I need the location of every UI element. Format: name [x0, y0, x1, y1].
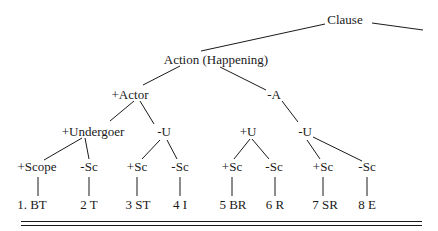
leaf-5: 5 BR — [219, 198, 246, 211]
node-scope-minus-1: -Sc — [80, 160, 97, 173]
leaf-7: 7 SR — [312, 198, 338, 211]
leaf-8: 8 E — [358, 198, 376, 211]
node-scope-plus-4: +Sc — [313, 160, 333, 173]
edge-actor-undergoer — [110, 101, 134, 121]
leaf-3: 3 ST — [126, 198, 151, 211]
edge-uplus-sc-minus — [252, 139, 269, 159]
leaf-2: 2 T — [80, 198, 97, 211]
edge-a-u-minus — [282, 101, 298, 122]
edge-action-actor-plus — [143, 66, 180, 85]
edge-undergoer-scope — [44, 138, 82, 160]
edge-uright-sc-minus — [313, 137, 362, 161]
node-scope-minus-4: -Sc — [358, 160, 375, 173]
node-undergoer-minus-right: -U — [298, 125, 312, 138]
node-undergoer-plus: +Undergoer — [62, 125, 125, 138]
node-actor-plus: +Actor — [112, 88, 149, 101]
tree-diagram: Clause Action (Happening) +Actor -A +Und… — [0, 0, 438, 231]
node-undergoer-plus-short: +U — [240, 125, 257, 138]
edge-actor-u-minus — [140, 101, 154, 124]
node-clause: Clause — [327, 13, 362, 26]
leaf-6: 6 R — [266, 198, 284, 211]
edge-uright-sc-plus — [307, 140, 320, 159]
edge-clause-action — [201, 24, 325, 51]
node-undergoer-minus-left: -U — [157, 125, 171, 138]
node-scope-minus-3: -Sc — [265, 160, 282, 173]
edge-uplus-sc-plus — [234, 139, 250, 159]
node-scope-plus-3: +Sc — [222, 160, 242, 173]
edge-clause-right — [372, 23, 423, 30]
node-scope-plus: +Scope — [17, 160, 56, 173]
node-action-happening: Action (Happening) — [164, 53, 268, 66]
edge-undergoer-sc-minus — [85, 138, 89, 159]
leaf-1: 1. BT — [17, 198, 47, 211]
node-actor-minus: -A — [267, 88, 281, 101]
leaf-4: 4 I — [173, 198, 187, 211]
node-scope-minus-2: -Sc — [171, 160, 188, 173]
edge-action-actor-minus — [220, 67, 266, 90]
edge-u-sc-minus — [167, 140, 177, 159]
node-scope-plus-2: +Sc — [127, 160, 147, 173]
edge-u-sc-plus — [142, 140, 160, 159]
